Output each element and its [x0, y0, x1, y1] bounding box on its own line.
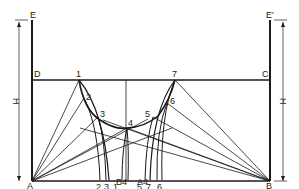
- label-D: D: [34, 69, 41, 79]
- label-7: 7: [172, 69, 177, 79]
- bottom-label-2: 2: [96, 182, 101, 189]
- label-3: 3: [100, 109, 105, 119]
- label-C: C: [262, 69, 269, 79]
- label-5: 5: [145, 109, 150, 119]
- label-4: 4: [128, 118, 133, 128]
- dimension-label-left: H: [11, 98, 21, 105]
- dimension-label-right: H: [278, 98, 288, 105]
- construction-diagram: E E' D C A B 1 2 3 4 5 6 7 2 3 1 5 7 6 B…: [0, 0, 299, 189]
- label-A: A: [27, 181, 33, 189]
- label-E2: E': [266, 10, 274, 20]
- bottom-label-6: 6: [157, 182, 162, 189]
- label-1: 1: [76, 69, 81, 79]
- label-B: B: [266, 181, 272, 189]
- label-6: 6: [170, 96, 175, 106]
- bottom-label-3: 3: [104, 182, 109, 189]
- label-2: 2: [86, 92, 91, 102]
- label-A4: A4: [137, 177, 148, 187]
- diagram: E E' D C A B 1 2 3 4 5 6 7 2 3 1 5 7 6 B…: [0, 0, 299, 189]
- label-B4: B4: [116, 177, 127, 187]
- label-E: E: [30, 10, 36, 20]
